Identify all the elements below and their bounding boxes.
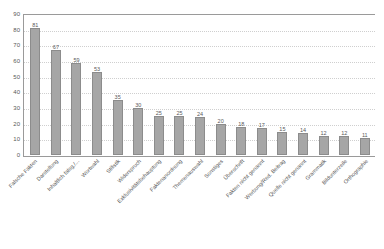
bar-chart: 9080706050403020100 81675953353025252420…: [0, 0, 384, 249]
bar-slot: 18: [231, 15, 252, 155]
bar-value-label: 25: [176, 110, 182, 116]
y-tick-label: 70: [13, 42, 20, 48]
bar-slot: 53: [87, 15, 108, 155]
y-tick-label: 80: [13, 27, 20, 33]
category-axis-labels: Falsche FaktenDarstellungInhaltlich fals…: [24, 158, 375, 249]
y-tick-label: 20: [13, 121, 20, 127]
bar-slot: 59: [66, 15, 87, 155]
bar-value-label: 24: [197, 111, 203, 117]
bar[interactable]: 25: [174, 116, 184, 155]
bar-slot: 35: [107, 15, 128, 155]
bar-value-label: 11: [362, 132, 368, 138]
bar-value-label: 53: [94, 66, 100, 72]
bar-slot: 17: [252, 15, 273, 155]
bar[interactable]: 17: [257, 128, 267, 155]
bar[interactable]: 53: [92, 72, 102, 155]
bar-slot: 20: [210, 15, 231, 155]
bar-value-label: 12: [341, 130, 347, 136]
y-tick-label: 40: [13, 89, 20, 95]
bar[interactable]: 35: [113, 100, 123, 155]
category-label: Wortwahl: [80, 158, 101, 179]
y-tick-label: 30: [13, 105, 20, 111]
bar[interactable]: 25: [154, 116, 164, 155]
bar-value-label: 81: [32, 22, 38, 28]
bar-slot: 25: [149, 15, 170, 155]
category-label: Falsche Fakten: [8, 158, 39, 189]
bar-value-label: 12: [321, 130, 327, 136]
y-tick-label: 0: [17, 152, 20, 158]
bar[interactable]: 67: [51, 50, 61, 155]
bar-value-label: 17: [259, 122, 265, 128]
bar-slot: 15: [272, 15, 293, 155]
bar-slot: 11: [355, 15, 376, 155]
y-tick-label: 50: [13, 74, 20, 80]
bar[interactable]: 30: [133, 108, 143, 155]
bar-value-label: 67: [53, 44, 59, 50]
y-axis: 9080706050403020100: [0, 0, 22, 160]
bar-value-label: 20: [218, 118, 224, 124]
bar-slot: 67: [46, 15, 67, 155]
bar[interactable]: 11: [360, 138, 370, 155]
bar-slot: 12: [334, 15, 355, 155]
bar-value-label: 15: [279, 126, 285, 132]
bar-slot: 25: [169, 15, 190, 155]
y-tick-label: 60: [13, 58, 20, 64]
bar-value-label: 25: [156, 110, 162, 116]
plot-outer: 9080706050403020100 81675953353025252420…: [0, 0, 384, 249]
bar-slot: 14: [293, 15, 314, 155]
bar-value-label: 59: [73, 57, 79, 63]
bar[interactable]: 81: [30, 28, 40, 155]
bar-slot: 24: [190, 15, 211, 155]
bars-layer: 8167595335302525242018171514121211: [25, 15, 375, 155]
bar[interactable]: 15: [277, 132, 287, 156]
bar[interactable]: 24: [195, 117, 205, 155]
bar[interactable]: 20: [216, 124, 226, 155]
bar[interactable]: 59: [71, 63, 81, 155]
y-tick-label: 10: [13, 136, 20, 142]
y-tick-label: 90: [13, 11, 20, 17]
bar-value-label: 14: [300, 127, 306, 133]
bar-value-label: 18: [238, 121, 244, 127]
bar[interactable]: 14: [298, 133, 308, 155]
bar-value-label: 30: [135, 102, 141, 108]
bar[interactable]: 12: [339, 136, 349, 155]
bar[interactable]: 18: [236, 127, 246, 155]
bar-slot: 81: [25, 15, 46, 155]
plot-area: 8167595335302525242018171514121211: [23, 14, 375, 157]
category-label: Stilistik: [105, 158, 122, 175]
bar-value-label: 35: [115, 94, 121, 100]
category-label: Quelle nicht genannt: [267, 158, 307, 198]
bar-slot: 12: [313, 15, 334, 155]
bar[interactable]: 12: [319, 136, 329, 155]
bar-slot: 30: [128, 15, 149, 155]
